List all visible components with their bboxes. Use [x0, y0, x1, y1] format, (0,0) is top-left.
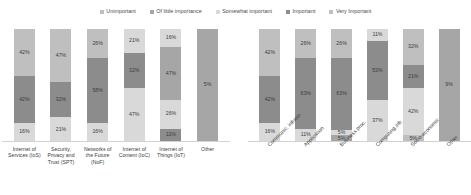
bar-segment[interactable]: 58%	[87, 58, 108, 123]
bar-segment[interactable]: 47%	[50, 29, 71, 82]
bar-segment-label: 47%	[56, 53, 66, 58]
bar-segment[interactable]: 16%	[87, 123, 108, 141]
bar-segment[interactable]: 26%	[295, 29, 316, 58]
bar-segment-label: 16%	[265, 129, 275, 134]
bar-segment[interactable]: 21%	[124, 29, 145, 53]
bar-segment[interactable]: 21%	[403, 65, 424, 89]
stacked-bar[interactable]: 21%32%47%	[124, 29, 145, 141]
bar-segment-label: 63%	[301, 91, 311, 96]
chart-panel-right: 42%42%16%26%63%11%26%63%5%5%11%53%37%32%…	[248, 26, 471, 195]
legend-item-label: Of little importance	[156, 9, 201, 14]
x-axis-left: Internet of Services (IoS)Security, Priv…	[2, 142, 230, 165]
bar-segment[interactable]: 11%	[367, 29, 388, 41]
bar-segment[interactable]: 21%	[50, 117, 71, 141]
legend-item[interactable]: Somewhat important	[216, 9, 272, 14]
x-axis-tick-label: Networks of the Future (NoF)	[80, 146, 116, 165]
bar-segment[interactable]: 47%	[160, 47, 181, 100]
legend-swatch-icon	[286, 10, 290, 14]
bar-segment-label: 16%	[166, 35, 176, 40]
x-axis-right: Communic. infrastr.ApplicationBusiness p…	[248, 142, 471, 192]
x-axis-tick-label: Security, Privacy and Trust (SPT)	[43, 146, 79, 165]
stacked-bar[interactable]: 42%42%16%	[14, 29, 35, 141]
bar-segment-label: 32%	[56, 97, 66, 102]
stacked-bar[interactable]: 26%58%16%	[87, 29, 108, 141]
bar-segment-label: 42%	[19, 97, 29, 102]
bar-segment[interactable]: 42%	[259, 76, 280, 123]
legend-swatch-icon	[150, 10, 154, 14]
bar-segment-label: 47%	[129, 112, 139, 117]
bar-segment[interactable]: 42%	[403, 88, 424, 135]
bar-segment-label: 16%	[19, 129, 29, 134]
bar-segment-label: 63%	[336, 91, 346, 96]
bar-segment-label: 42%	[265, 50, 275, 55]
bar-segment-label: 53%	[372, 68, 382, 73]
x-axis-tick-label: Internet of Things (IoT)	[153, 146, 189, 165]
bar-segment-label: 11%	[166, 132, 176, 137]
bar-segment-label: 21%	[56, 127, 66, 132]
bar-segment-label: 26%	[336, 41, 346, 46]
bar-segment-label: 32%	[408, 44, 418, 49]
bar-segment-label: 5%	[338, 130, 346, 135]
legend-item-label: Somewhat important	[222, 9, 272, 14]
bar-segment[interactable]: 32%	[124, 53, 145, 89]
legend-swatch-icon	[100, 10, 104, 14]
legend-item[interactable]: Very Important	[329, 9, 371, 14]
legend-item[interactable]: Unimportant	[100, 9, 136, 14]
bar-segment-label: 32%	[129, 68, 139, 73]
bar-segment-label: 37%	[372, 118, 382, 123]
stacked-bar[interactable]: 26%63%11%	[295, 29, 316, 141]
bar-segment-label: 42%	[19, 50, 29, 55]
x-axis-tick-label: Internet of Services (IoS)	[6, 146, 42, 165]
chart-panel-left: 42%42%16%47%32%21%26%58%16%21%32%47%16%4…	[2, 26, 230, 195]
legend-swatch-icon	[216, 10, 220, 14]
bar-segment[interactable]: 42%	[259, 29, 280, 76]
bar-segment[interactable]: 9%	[439, 29, 460, 141]
legend-item[interactable]: Important	[286, 9, 315, 14]
bar-segment-label: 9%	[445, 82, 453, 87]
bar-segment[interactable]: 26%	[160, 100, 181, 129]
stacked-bar[interactable]: 47%32%21%	[50, 29, 71, 141]
legend-item-label: Important	[292, 9, 315, 14]
x-axis-tick-label: Internet of Content (IoC)	[116, 146, 152, 165]
stacked-bar[interactable]: 42%42%16%	[259, 29, 280, 141]
bar-segment[interactable]: 32%	[50, 82, 71, 118]
bar-segment-label: 5%	[204, 82, 212, 87]
legend-item-label: Very Important	[336, 9, 371, 14]
bar-segment-label: 26%	[301, 41, 311, 46]
stacked-bar[interactable]: 32%21%42%5%	[403, 29, 424, 141]
plot-area-left: 42%42%16%47%32%21%26%58%16%21%32%47%16%4…	[2, 26, 230, 142]
bar-segment[interactable]: 26%	[87, 29, 108, 58]
chart-legend: UnimportantOf little importanceSomewhat …	[0, 9, 471, 14]
bar-segment[interactable]: 42%	[14, 29, 35, 76]
stacked-bar[interactable]: 26%63%5%5%	[331, 29, 352, 141]
legend-item[interactable]: Of little importance	[150, 9, 202, 14]
bar-segment[interactable]: 11%	[160, 129, 181, 141]
bar-segment[interactable]: 42%	[14, 76, 35, 123]
stacked-bar[interactable]: 9%	[439, 29, 460, 141]
bar-segment-label: 26%	[92, 41, 102, 46]
bar-segment[interactable]: 53%	[367, 41, 388, 100]
bar-segment[interactable]: 16%	[160, 29, 181, 47]
bar-segment-label: 26%	[166, 111, 176, 116]
bar-segment[interactable]: 63%	[331, 58, 352, 129]
legend-item-label: Unimportant	[106, 9, 136, 14]
bar-segment[interactable]: 16%	[14, 123, 35, 141]
bar-segment[interactable]: 32%	[403, 29, 424, 65]
bar-segment-label: 16%	[92, 129, 102, 134]
stacked-bar[interactable]: 5%	[197, 29, 218, 141]
bar-segment-label: 21%	[408, 74, 418, 79]
bar-segment[interactable]: 47%	[124, 88, 145, 141]
x-axis-tick-label: Other	[190, 146, 226, 165]
bar-segment[interactable]: 5%	[197, 29, 218, 141]
stacked-bar[interactable]: 16%47%26%11%	[160, 29, 181, 141]
legend-swatch-icon	[329, 10, 333, 14]
bar-segment-label: 42%	[408, 109, 418, 114]
bar-segment-label: 47%	[166, 71, 176, 76]
chart-figure: UnimportantOf little importanceSomewhat …	[0, 0, 471, 195]
bar-segment-label: 58%	[92, 88, 102, 93]
stacked-bar[interactable]: 11%53%37%	[367, 29, 388, 141]
bar-segment-label: 21%	[129, 38, 139, 43]
bar-segment-label: 11%	[372, 32, 382, 37]
bar-segment[interactable]: 26%	[331, 29, 352, 58]
bar-segment-label: 42%	[265, 97, 275, 102]
